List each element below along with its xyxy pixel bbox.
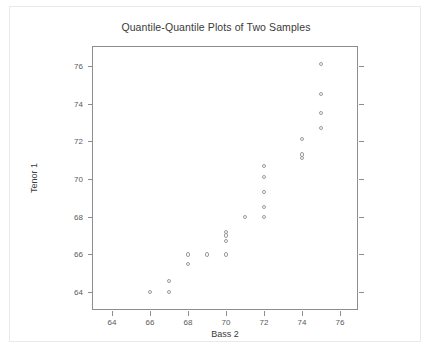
scatter-point [224, 233, 228, 237]
y-axis-tick-label: 68 [74, 212, 83, 221]
y-axis-tick-mirror [359, 66, 364, 67]
scatter-point [186, 252, 190, 256]
y-axis-tick-label: 72 [74, 137, 83, 146]
scatter-point [262, 164, 266, 168]
x-axis-tick-label: 64 [108, 318, 117, 327]
y-axis-tick-label: 74 [74, 99, 83, 108]
y-axis-tick [88, 179, 93, 180]
scatter-point [224, 239, 228, 243]
scatter-point [262, 190, 266, 194]
scatter-point [300, 156, 304, 160]
y-axis-tick-mirror [359, 179, 364, 180]
y-axis-tick [88, 254, 93, 255]
x-axis-tick-label: 70 [222, 318, 231, 327]
scatter-point [300, 152, 304, 156]
scatter-point [205, 252, 209, 256]
plot-area: 6466687072747664666870727476 [92, 46, 358, 310]
x-axis-tick-label: 74 [298, 318, 307, 327]
scatter-point [262, 215, 266, 219]
x-axis-tick-label: 68 [184, 318, 193, 327]
y-axis-tick-mirror [359, 292, 364, 293]
x-axis-tick-label: 76 [336, 318, 345, 327]
y-axis-tick-label: 76 [74, 61, 83, 70]
y-axis-tick-mirror [359, 217, 364, 218]
scatter-point [319, 111, 323, 115]
scatter-point [186, 262, 190, 266]
x-axis-tick [226, 311, 227, 316]
y-axis-label: Tenor 1 [29, 163, 39, 193]
y-axis-tick-mirror [359, 141, 364, 142]
y-axis-tick [88, 104, 93, 105]
y-axis-tick [88, 292, 93, 293]
scatter-point [224, 252, 228, 256]
scatter-point [148, 290, 152, 294]
x-axis-tick [302, 311, 303, 316]
scatter-point [167, 279, 171, 283]
scatter-point [319, 62, 323, 66]
y-axis-tick-mirror [359, 104, 364, 105]
scatter-point [262, 175, 266, 179]
scatter-point [243, 215, 247, 219]
chart-card: Quantile-Quantile Plots of Two Samples 6… [9, 6, 421, 342]
scatter-point [167, 290, 171, 294]
y-axis-tick-label: 64 [74, 288, 83, 297]
scatter-point [300, 137, 304, 141]
y-axis-tick-label: 70 [74, 175, 83, 184]
x-axis-tick [264, 311, 265, 316]
x-axis-tick [188, 311, 189, 316]
y-axis-tick-label: 66 [74, 250, 83, 259]
x-axis-label: Bass 2 [92, 329, 358, 339]
y-axis-tick-mirror [359, 254, 364, 255]
scatter-point [319, 92, 323, 96]
x-axis-tick-label: 72 [260, 318, 269, 327]
x-axis-tick [112, 311, 113, 316]
scatter-point [224, 230, 228, 234]
scatter-point [262, 205, 266, 209]
x-axis-tick [150, 311, 151, 316]
y-axis-tick [88, 66, 93, 67]
y-axis-tick [88, 141, 93, 142]
scatter-points-layer [93, 47, 357, 309]
x-axis-tick [340, 311, 341, 316]
x-axis-tick-label: 66 [146, 318, 155, 327]
scatter-point [319, 126, 323, 130]
chart-title: Quantile-Quantile Plots of Two Samples [10, 21, 422, 33]
y-axis-tick [88, 217, 93, 218]
